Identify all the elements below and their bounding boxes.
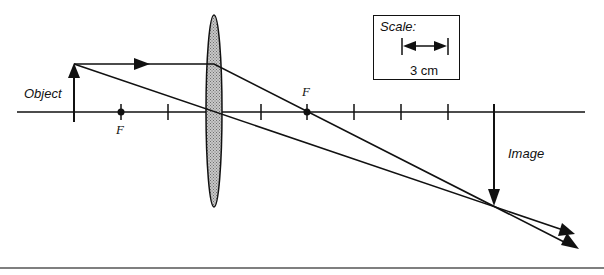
- ray-parallel-arrow-end: [561, 233, 579, 249]
- object-arrow: [68, 63, 80, 122]
- ray-parallel: [74, 64, 570, 245]
- focal-label-right: F: [302, 84, 310, 100]
- object-label: Object: [24, 86, 62, 101]
- scale-title: Scale:: [380, 19, 416, 34]
- focal-point-left: [118, 109, 125, 116]
- ray-parallel-arrow-mid: [134, 58, 150, 70]
- ray-diagram: [0, 0, 604, 275]
- scale-box: Scale: 3 cm: [373, 15, 460, 80]
- scale-value: 3 cm: [410, 63, 438, 78]
- ray-central: [74, 64, 566, 231]
- ray-central-arrow-end: [558, 223, 575, 236]
- image-arrow: [488, 104, 500, 206]
- focal-label-left: F: [116, 122, 124, 138]
- image-label: Image: [508, 146, 544, 161]
